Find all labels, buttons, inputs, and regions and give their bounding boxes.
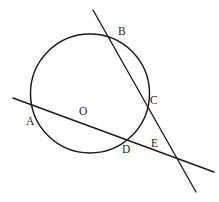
secant-line-ade — [13, 98, 214, 172]
point-label-c: C — [150, 95, 158, 107]
circle-center-label-o: O — [79, 106, 87, 118]
point-label-d: D — [122, 144, 130, 156]
secant-line-bce — [93, 10, 196, 192]
figure-canvas — [0, 0, 219, 202]
point-label-a: A — [26, 116, 34, 128]
point-label-e: E — [151, 138, 158, 150]
point-label-b: B — [118, 26, 126, 38]
geometry-figure: A B C D E O — [0, 0, 219, 202]
main-circle — [31, 34, 150, 153]
